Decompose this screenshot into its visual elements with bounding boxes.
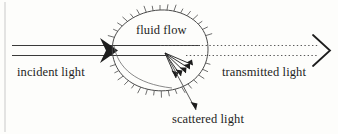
blob-hatch-mark bbox=[108, 36, 115, 38]
blob-hatch-mark bbox=[199, 75, 205, 79]
blob-hatch-mark bbox=[130, 14, 133, 18]
blob-hatch-mark bbox=[118, 76, 124, 80]
blob-hatch-mark bbox=[188, 84, 192, 89]
blob-hatch-mark bbox=[154, 90, 155, 95]
blob-hatch-mark bbox=[187, 11, 191, 16]
blob-hatch-mark bbox=[206, 34, 212, 36]
blob-hatch-mark bbox=[206, 63, 211, 64]
transmitted-beam-arrowhead bbox=[313, 35, 330, 66]
blob-hatch-marks bbox=[108, 4, 212, 97]
label-transmitted-light: transmitted light bbox=[222, 66, 306, 79]
blob-hatch-mark bbox=[131, 84, 134, 88]
blob-hatch-mark bbox=[203, 27, 208, 30]
scattering-diagram-figure: incident light transmitted light fluid f… bbox=[0, 0, 338, 134]
label-fluid-flow: fluid flow bbox=[136, 24, 187, 37]
scattered-light-leader-line bbox=[166, 54, 198, 110]
transmitted-beam-lines bbox=[160, 46, 318, 56]
blob-hatch-mark bbox=[146, 89, 148, 95]
blob-hatch-mark bbox=[174, 5, 176, 11]
blob-hatch-mark bbox=[181, 9, 183, 13]
blob-hatch-mark bbox=[117, 23, 122, 26]
blob-hatch-mark bbox=[138, 87, 141, 93]
blob-hatch-mark bbox=[137, 9, 140, 14]
blob-hatch-mark bbox=[110, 65, 116, 67]
blob-hatch-mark bbox=[203, 69, 208, 71]
blob-hatch-mark bbox=[144, 6, 146, 12]
incident-beam-lines bbox=[12, 46, 118, 56]
blob-hatch-mark bbox=[114, 71, 118, 73]
beam-inside-blob bbox=[113, 46, 200, 56]
label-incident-light: incident light bbox=[17, 66, 85, 79]
blob-hatch-mark bbox=[167, 4, 168, 10]
blob-hatch-mark bbox=[193, 15, 198, 20]
label-scattered-light: scattered light bbox=[172, 113, 244, 126]
blob-hatch-mark bbox=[198, 21, 202, 24]
blob-hatch-mark bbox=[175, 89, 177, 94]
blob-hatch-mark bbox=[194, 80, 198, 83]
blob-hatch-mark bbox=[122, 17, 127, 21]
blob-hatch-mark bbox=[124, 81, 128, 85]
scattered-ray-fan bbox=[165, 53, 193, 78]
blob-hatch-mark bbox=[152, 6, 153, 11]
blob-hatch-mark bbox=[113, 29, 118, 31]
blob-hatch-mark bbox=[168, 90, 169, 96]
